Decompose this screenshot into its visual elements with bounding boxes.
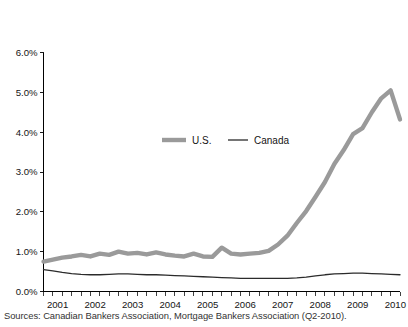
legend-label-us: U.S. — [192, 135, 211, 146]
series-line-us — [44, 90, 401, 261]
y-axis-tick-label: 1.0% — [16, 246, 38, 257]
x-axis-tick-label: 2006 — [235, 299, 256, 310]
y-axis-tick-label: 2.0% — [16, 206, 38, 217]
data-series-group — [44, 90, 401, 278]
y-axis-tick-label: 5.0% — [16, 87, 38, 98]
x-axis-tick-label: 2010 — [385, 299, 406, 310]
chart-legend: U.S.Canada — [162, 135, 289, 146]
y-axis-tick-label: 4.0% — [16, 127, 38, 138]
y-axis-tick-label: 0.0% — [16, 286, 38, 297]
axes-group: 0.0%1.0%2.0%3.0%4.0%5.0%6.0%200120022003… — [16, 47, 406, 310]
line-chart-plot: 0.0%1.0%2.0%3.0%4.0%5.0%6.0%200120022003… — [0, 0, 408, 327]
figure-container: 0.0%1.0%2.0%3.0%4.0%5.0%6.0%200120022003… — [0, 0, 408, 327]
legend-label-canada: Canada — [254, 135, 289, 146]
x-axis-tick-label: 2008 — [310, 299, 331, 310]
x-axis-tick-label: 2007 — [272, 299, 293, 310]
y-axis-tick-label: 3.0% — [16, 166, 38, 177]
source-note: Sources: Canadian Bankers Association, M… — [4, 310, 347, 321]
y-axis-tick-label: 6.0% — [16, 47, 38, 58]
series-line-canada — [44, 270, 401, 279]
x-axis-tick-label: 2004 — [159, 299, 181, 310]
x-axis-tick-label: 2003 — [122, 299, 143, 310]
x-axis-tick-label: 2005 — [197, 299, 218, 310]
x-axis-tick-label: 2001 — [47, 299, 68, 310]
x-axis-tick-label: 2002 — [84, 299, 105, 310]
x-axis-tick-label: 2009 — [347, 299, 368, 310]
